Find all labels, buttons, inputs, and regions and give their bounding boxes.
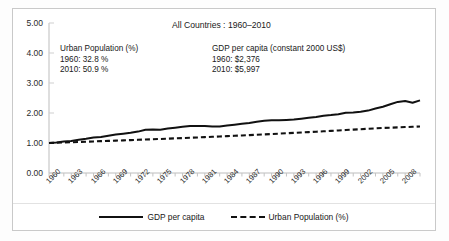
y-axis-tick-label: 5.00 [13, 18, 43, 28]
y-axis-tick-label: 3.00 [13, 78, 43, 88]
data-series-group [49, 100, 420, 143]
legend-item-urban-population[interactable]: Urban Population (%) [231, 212, 349, 222]
gdp-per-capita-annotation-line-2: 2010: $5,997 [212, 65, 345, 76]
chart-figure: All Countries : 1960–2010 5.004.003.002.… [0, 0, 449, 241]
gdp-per-capita-annotation: GDP per capita (constant 2000 US$)1960: … [212, 44, 345, 76]
legend-label: GDP per capita [147, 212, 204, 222]
y-axis-tick-label: 1.00 [13, 138, 43, 148]
legend-swatch-dashed-line-icon [231, 216, 265, 218]
legend-swatch-solid-line-icon [99, 216, 143, 218]
legend-separator [13, 203, 435, 204]
legend-label: Urban Population (%) [269, 212, 349, 222]
legend-item-gdp-per-capita[interactable]: GDP per capita [99, 212, 204, 222]
gdp-per-capita-annotation-line-0: GDP per capita (constant 2000 US$) [212, 44, 345, 55]
urban-population-annotation-line-0: Urban Population (%) [60, 44, 138, 55]
y-axis-tick-label: 0.00 [13, 168, 43, 178]
chart-svg [0, 0, 449, 241]
y-axis-tick-label: 2.00 [13, 108, 43, 118]
plot-area [0, 0, 449, 241]
urban-population-annotation-line-1: 1960: 32.8 % [60, 55, 138, 66]
urban-population-annotation-line-2: 2010: 50.9 % [60, 65, 138, 76]
y-axis-tick-label: 4.00 [13, 48, 43, 58]
gdp-per-capita-annotation-line-1: 1960: $2,376 [212, 55, 345, 66]
chart-title: All Countries : 1960–2010 [172, 20, 271, 30]
urban-population-annotation: Urban Population (%)1960: 32.8 %2010: 50… [60, 44, 138, 76]
series-line-urban-population [49, 126, 420, 143]
chart-legend: GDP per capita Urban Population (%) [12, 212, 436, 222]
